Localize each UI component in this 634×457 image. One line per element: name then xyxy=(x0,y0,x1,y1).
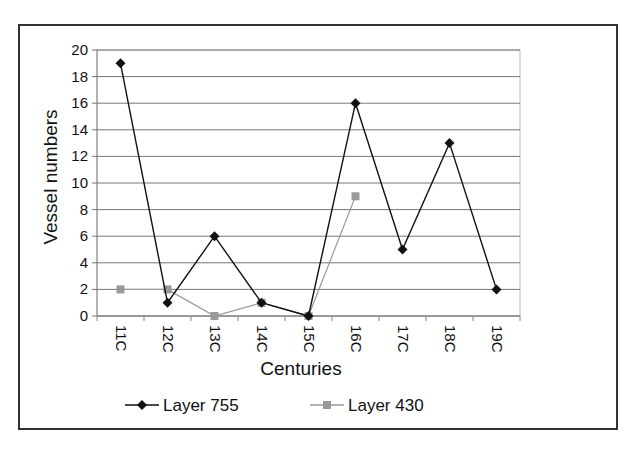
x-tick-label: 11C xyxy=(113,325,130,352)
diamond-marker xyxy=(445,138,455,148)
line-chart: 02468101214161820 11C12C13C14C15C16C17C1… xyxy=(0,0,634,457)
square-marker xyxy=(211,312,219,320)
diamond-marker xyxy=(163,298,173,308)
x-axis-title: Centuries xyxy=(260,358,341,379)
y-tick-label: 6 xyxy=(80,227,88,244)
x-tick-label: 14C xyxy=(254,325,271,353)
legend: Layer 755Layer 430 xyxy=(125,396,424,415)
legend-label: Layer 755 xyxy=(163,396,239,415)
x-tick-label: 17C xyxy=(395,325,412,353)
x-tick-label: 13C xyxy=(207,325,224,353)
diamond-marker xyxy=(398,245,408,255)
series-layer-430 xyxy=(117,192,360,320)
x-tick-label: 18C xyxy=(442,325,459,353)
x-axis-ticks: 11C12C13C14C15C16C17C18C19C xyxy=(97,316,520,353)
y-tick-label: 0 xyxy=(80,307,88,324)
diamond-marker xyxy=(137,400,147,410)
diamond-marker xyxy=(116,58,126,68)
y-tick-label: 10 xyxy=(71,174,88,191)
y-tick-label: 12 xyxy=(71,147,88,164)
diamond-marker xyxy=(210,231,220,241)
diamond-marker xyxy=(351,98,361,108)
series-layer-755 xyxy=(116,58,502,321)
square-marker xyxy=(117,285,125,293)
x-tick-label: 15C xyxy=(301,325,318,353)
x-tick-label: 12C xyxy=(160,325,177,353)
data-series xyxy=(116,58,502,321)
legend-label: Layer 430 xyxy=(348,396,424,415)
diamond-marker xyxy=(492,284,502,294)
x-tick-label: 19C xyxy=(489,325,506,353)
legend-item: Layer 430 xyxy=(310,396,424,415)
y-tick-label: 14 xyxy=(71,121,88,138)
y-tick-label: 4 xyxy=(80,254,88,271)
y-tick-label: 18 xyxy=(71,68,88,85)
square-marker xyxy=(352,192,360,200)
y-axis-title: Vessel numbers xyxy=(40,109,61,244)
y-tick-label: 16 xyxy=(71,94,88,111)
x-tick-label: 16C xyxy=(348,325,365,353)
legend-item: Layer 755 xyxy=(125,396,239,415)
y-tick-label: 8 xyxy=(80,201,88,218)
y-tick-label: 2 xyxy=(80,280,88,297)
square-marker xyxy=(323,401,331,409)
gridlines xyxy=(97,50,520,316)
y-axis-ticks: 02468101214161820 xyxy=(71,41,97,324)
y-tick-label: 20 xyxy=(71,41,88,58)
